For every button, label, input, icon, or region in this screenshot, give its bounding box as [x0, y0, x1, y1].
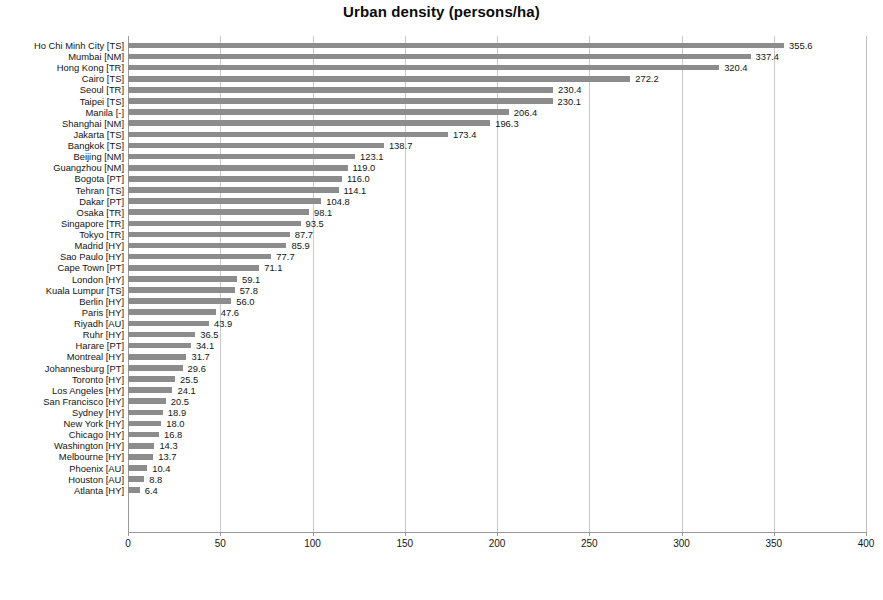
bar-row: 8.8 [128, 474, 866, 485]
bar-value-label: 14.3 [159, 440, 177, 451]
bar [128, 109, 509, 115]
category-label: Taipei [TS] [0, 96, 124, 107]
bar-row: 71.1 [128, 262, 866, 273]
bar-value-label: 10.4 [152, 463, 170, 474]
bar-row: 56.0 [128, 296, 866, 307]
x-tick-label: 200 [489, 538, 506, 549]
category-label: Toronto [HY] [0, 374, 124, 385]
bar-value-label: 47.6 [221, 307, 239, 318]
category-label: Tokyo [TR] [0, 229, 124, 240]
bar-value-label: 8.8 [149, 474, 162, 485]
bar [128, 354, 186, 360]
bar [128, 410, 163, 416]
bar-row: 272.2 [128, 73, 866, 84]
bar-row: 29.6 [128, 363, 866, 374]
category-label: Osaka [TR] [0, 207, 124, 218]
bar-row: 119.0 [128, 162, 866, 173]
bar-value-label: 230.4 [558, 84, 581, 95]
bar-row: 355.6 [128, 40, 866, 51]
category-label: Ruhr [HY] [0, 329, 124, 340]
x-tick-200 [497, 532, 498, 536]
bar-row: 47.6 [128, 307, 866, 318]
bar-row: 337.4 [128, 51, 866, 62]
x-tick-350 [774, 532, 775, 536]
category-label: Cape Town [PT] [0, 262, 124, 273]
bar-row: 116.0 [128, 173, 866, 184]
bar-value-label: 123.1 [360, 151, 383, 162]
bar-row: 6.4 [128, 485, 866, 496]
bar [128, 443, 154, 449]
bar-value-label: 6.4 [145, 485, 158, 496]
category-label: Seoul [TR] [0, 84, 124, 95]
bar [128, 120, 490, 126]
bar-value-label: 98.1 [314, 207, 332, 218]
bar-row: 18.9 [128, 407, 866, 418]
bar-row: 123.1 [128, 151, 866, 162]
bar-row: 18.0 [128, 418, 866, 429]
category-label: Manila [-] [0, 107, 124, 118]
x-tick-150 [405, 532, 406, 536]
x-tick-250 [589, 532, 590, 536]
bar-value-label: 29.6 [188, 363, 206, 374]
bar-row: 230.4 [128, 84, 866, 95]
bar-row: 10.4 [128, 463, 866, 474]
bar-row: 87.7 [128, 229, 866, 240]
category-label: Paris [HY] [0, 307, 124, 318]
bar-value-label: 206.4 [514, 107, 537, 118]
bar [128, 132, 448, 138]
bar-row: 14.3 [128, 440, 866, 451]
bar-row: 57.8 [128, 285, 866, 296]
bar-value-label: 25.5 [180, 374, 198, 385]
category-label: Chicago [HY] [0, 429, 124, 440]
bar-value-label: 104.8 [326, 196, 349, 207]
category-label: Dakar [PT] [0, 196, 124, 207]
bar [128, 143, 384, 149]
bar-row: 36.5 [128, 329, 866, 340]
x-tick-400 [866, 532, 867, 536]
category-label: New York [HY] [0, 418, 124, 429]
bar-row: 24.1 [128, 385, 866, 396]
category-label: Houston [AU] [0, 474, 124, 485]
bar-row: 93.5 [128, 218, 866, 229]
urban-density-bar-chart: Urban density (persons/ha) Ho Chi Minh C… [0, 0, 883, 600]
category-label: Los Angeles [HY] [0, 385, 124, 396]
x-tick-label: 50 [215, 538, 226, 549]
category-label: Phoenix [AU] [0, 463, 124, 474]
gridline-400 [866, 36, 867, 532]
bar [128, 176, 342, 182]
bar [128, 54, 751, 60]
x-tick-50 [220, 532, 221, 536]
bar-row: 196.3 [128, 118, 866, 129]
bar-value-label: 116.0 [347, 173, 370, 184]
bar-value-label: 16.8 [164, 429, 182, 440]
bar-row: 77.7 [128, 251, 866, 262]
category-label: Hong Kong [TR] [0, 62, 124, 73]
bar [128, 221, 301, 227]
bar [128, 98, 553, 104]
bar [128, 187, 339, 193]
bar [128, 309, 216, 315]
x-tick-label: 150 [396, 538, 413, 549]
bar-value-label: 18.0 [166, 418, 184, 429]
bar-value-label: 36.5 [200, 329, 218, 340]
bar-value-label: 230.1 [558, 96, 581, 107]
category-label: Beijing [NM] [0, 151, 124, 162]
x-tick-label: 300 [673, 538, 690, 549]
category-label: Riyadh [AU] [0, 318, 124, 329]
category-label: Bogota [PT] [0, 173, 124, 184]
bar [128, 421, 161, 427]
category-label: Bangkok [TS] [0, 140, 124, 151]
bar [128, 154, 355, 160]
bar-row: 138.7 [128, 140, 866, 151]
category-label: London [HY] [0, 274, 124, 285]
bar-row: 34.1 [128, 340, 866, 351]
bar-row: 43.9 [128, 318, 866, 329]
x-tick-label: 0 [125, 538, 131, 549]
bar-value-label: 20.5 [171, 396, 189, 407]
plot-area: 355.6337.4320.4272.2230.4230.1206.4196.3… [128, 36, 866, 532]
bar-row: 31.7 [128, 351, 866, 362]
category-label: Jakarta [TS] [0, 129, 124, 140]
bar-value-label: 173.4 [453, 129, 476, 140]
bar [128, 298, 231, 304]
bar-row: 320.4 [128, 62, 866, 73]
